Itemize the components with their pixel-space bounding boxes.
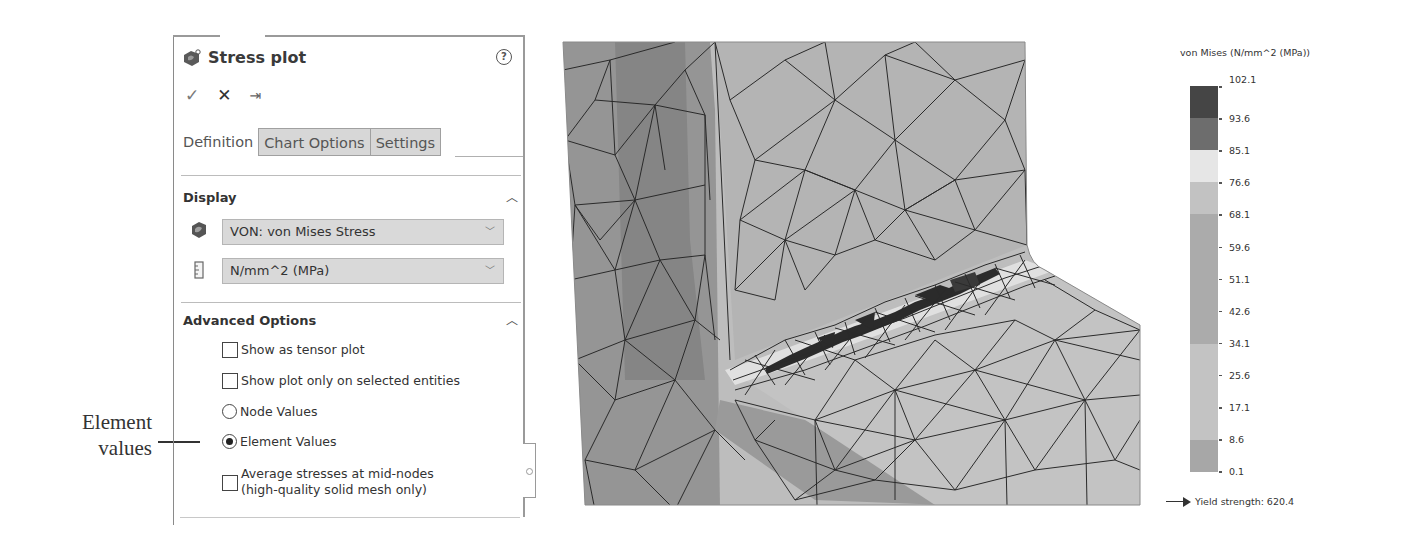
annotation-line-2: values [52,435,152,461]
cancel-x-icon[interactable]: ✕ [217,86,231,104]
collapse-chevron-up-icon[interactable]: ︿ [506,311,518,328]
ok-checkmark-icon[interactable]: ✓ [185,86,199,104]
show-selected-entities-option[interactable]: Show plot only on selected entities [222,373,460,389]
show-tensor-plot-checkbox[interactable] [222,342,238,358]
units-value: N/mm^2 (MPa) [230,263,329,278]
legend-tick [1219,118,1222,120]
panel-border [265,35,523,37]
panel-header: Stress plot [182,48,306,67]
pushpin-icon[interactable]: ⇥ [250,86,262,104]
legend-tick-label: 51.1 [1229,274,1250,285]
legend-tick [1219,150,1222,152]
panel-tabs: Definition Chart Options Settings [178,128,441,156]
legend-tick [1219,471,1222,473]
legend-tick-label: 17.1 [1229,402,1250,413]
arrow-right-icon [1166,497,1192,507]
panel-border [180,517,520,518]
legend-tick-label: 8.6 [1229,434,1244,445]
legend-tick-label: 93.6 [1229,113,1250,124]
help-circle-icon[interactable]: ? [496,49,512,65]
legend-band [1190,86,1218,118]
legend-tick [1219,279,1222,281]
show-selected-entities-checkbox[interactable] [222,373,238,389]
yield-strength-marker: Yield strength: 620.4 [1166,496,1294,507]
legend-tick-label: 0.1 [1229,466,1244,477]
grip-dot-icon [526,468,533,475]
node-values-label: Node Values [240,404,317,420]
stress-component-value: VON: von Mises Stress [230,224,376,239]
ruler-icon [190,261,208,279]
legend-tick-label: 85.1 [1229,145,1250,156]
legend-tick [1219,375,1222,377]
legend-tick-label: 42.6 [1229,306,1250,317]
section-divider [181,302,521,303]
advanced-options-section-header[interactable]: Advanced Options [183,313,316,328]
legend-band [1190,182,1218,214]
section-divider [181,175,521,176]
legend-band [1190,344,1218,440]
show-tensor-plot-label: Show as tensor plot [241,342,365,358]
display-section-header[interactable]: Display [183,190,237,205]
element-values-annotation: Element values [52,409,152,461]
legend-tick [1219,86,1222,88]
collapse-chevron-up-icon[interactable]: ︿ [506,188,518,205]
panel-border [523,35,525,444]
legend-tick [1219,311,1222,313]
tab-baseline [455,156,523,157]
tab-chart-options[interactable]: Chart Options [258,128,370,156]
stress-component-icon [190,221,208,239]
legend-tick-label: 34.1 [1229,338,1250,349]
tab-definition[interactable]: Definition [178,128,258,156]
node-values-radio[interactable] [222,404,237,419]
legend-tick-label: 59.6 [1229,242,1250,253]
color-bar [1190,86,1218,472]
legend-band [1190,440,1218,472]
panel-actions: ✓ ✕ ⇥ [185,86,261,104]
legend-tick-label: 102.1 [1229,74,1256,85]
legend-band [1190,118,1218,150]
average-mid-nodes-option[interactable]: Average stresses at mid-nodes (high-qual… [222,466,434,498]
stress-plot-icon [182,49,202,67]
element-values-radio[interactable] [222,434,237,449]
show-tensor-plot-option[interactable]: Show as tensor plot [222,342,365,358]
legend-tick-label: 68.1 [1229,209,1250,220]
legend-tick [1219,247,1222,249]
legend-title: von Mises (N/mm^2 (MPa)) [1180,47,1310,58]
element-values-option[interactable]: Element Values [222,434,337,450]
legend-tick-label: 25.6 [1229,370,1250,381]
annotation-line-1: Element [52,409,152,435]
panel-resize-handle[interactable] [523,443,536,498]
legend-tick [1219,214,1222,216]
show-selected-entities-label: Show plot only on selected entities [241,373,460,389]
legend-tick [1219,439,1222,441]
legend-tick [1219,182,1222,184]
stress-component-select[interactable]: VON: von Mises Stress ﹀ [222,219,504,245]
legend-tick [1219,343,1222,345]
chevron-down-icon: ﹀ [485,220,495,244]
node-values-option[interactable]: Node Values [222,404,317,420]
tab-settings[interactable]: Settings [371,128,441,156]
panel-title: Stress plot [208,48,306,67]
legend-tick-label: 76.6 [1229,177,1250,188]
legend-band [1190,214,1218,344]
average-mid-nodes-label: Average stresses at mid-nodes (high-qual… [241,466,434,498]
legend-band [1190,150,1218,182]
yield-strength-label: Yield strength: 620.4 [1195,496,1294,507]
chevron-down-icon: ﹀ [485,259,495,283]
units-select[interactable]: N/mm^2 (MPa) ﹀ [222,258,504,284]
stress-plot-mesh-viewport[interactable] [555,40,1155,510]
average-mid-nodes-checkbox[interactable] [222,475,238,491]
panel-border [173,35,220,37]
element-values-label: Element Values [240,434,337,450]
legend-tick [1219,407,1222,409]
panel-border [523,497,525,517]
